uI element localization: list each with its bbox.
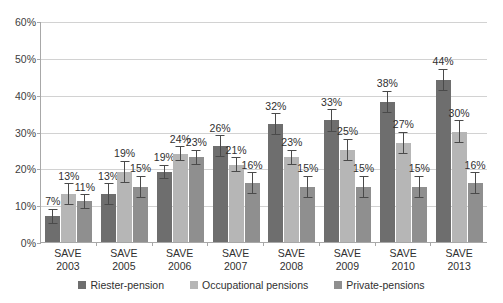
x-axis-tick-label: SAVE2013 xyxy=(431,247,487,273)
bar-value-label: 13% xyxy=(58,171,79,182)
x-axis-tick-label: SAVE2008 xyxy=(264,247,320,273)
bar[interactable] xyxy=(396,143,411,242)
y-axis-tick-label: 30% xyxy=(0,127,36,138)
y-axis-tick-label: 0% xyxy=(0,238,36,249)
legend-item[interactable]: Riester-pension xyxy=(78,280,164,291)
bar[interactable] xyxy=(229,165,244,242)
y-axis-tick-label: 40% xyxy=(0,90,36,101)
bar-slot: 7% xyxy=(45,22,60,242)
bar[interactable] xyxy=(436,80,451,242)
error-bar xyxy=(216,135,225,157)
legend-label: Riester-pension xyxy=(90,280,164,291)
bar-value-label: 19% xyxy=(114,148,135,159)
y-axis-tick-label: 50% xyxy=(0,54,36,65)
bar-value-label: 30% xyxy=(449,108,470,119)
bar-value-label: 13% xyxy=(98,171,119,182)
bar-slot: 26% xyxy=(213,22,228,242)
bar-group: 38%27%15% xyxy=(376,22,432,242)
error-bar xyxy=(471,172,480,194)
bar-value-label: 15% xyxy=(409,163,430,174)
bar-value-label: 27% xyxy=(393,119,414,130)
bar-value-label: 25% xyxy=(337,126,358,137)
bar[interactable] xyxy=(452,132,467,243)
error-bar xyxy=(415,176,424,198)
error-bar xyxy=(64,183,73,205)
bar-slot: 32% xyxy=(268,22,283,242)
x-axis-tick-label: SAVE2007 xyxy=(208,247,264,273)
error-bar xyxy=(383,91,392,113)
bar-value-label: 11% xyxy=(75,182,95,193)
bar-slot: 15% xyxy=(356,22,371,242)
bar-slot: 15% xyxy=(412,22,427,242)
bar-value-label: 7% xyxy=(45,196,60,207)
bar-value-label: 21% xyxy=(226,145,247,156)
bar-slot: 23% xyxy=(284,22,299,242)
error-bar xyxy=(192,150,201,165)
error-bar xyxy=(343,139,352,161)
legend-item[interactable]: Occupational pensions xyxy=(190,280,308,291)
error-bar xyxy=(48,209,57,224)
bar-slot: 27% xyxy=(396,22,411,242)
error-bar xyxy=(248,172,257,194)
bar-group: 44%30%16% xyxy=(431,22,487,242)
bar-slot: 19% xyxy=(117,22,132,242)
bar-value-label: 38% xyxy=(377,78,398,89)
x-axis-tick-labels: SAVE2003SAVE2005SAVE2006SAVE2007SAVE2008… xyxy=(40,247,487,273)
error-bar xyxy=(439,69,448,91)
error-bar xyxy=(232,157,241,172)
bar-chart: 7%13%11%13%19%15%19%24%23%26%21%16%32%23… xyxy=(0,0,503,303)
bar-group: 7%13%11% xyxy=(41,22,97,242)
legend-swatch-icon xyxy=(190,281,198,289)
error-bar xyxy=(176,146,185,161)
bar-slot: 30% xyxy=(452,22,467,242)
bar-value-label: 44% xyxy=(433,56,454,67)
y-axis-tick-mark xyxy=(37,243,41,244)
bar-slot: 15% xyxy=(300,22,315,242)
legend-item[interactable]: Private-pensions xyxy=(334,280,424,291)
error-bar xyxy=(399,132,408,154)
error-bar xyxy=(120,161,129,183)
x-axis-tick-label: SAVE2003 xyxy=(40,247,96,273)
bar-slot: 21% xyxy=(229,22,244,242)
error-bar xyxy=(287,150,296,165)
error-bar xyxy=(303,176,312,198)
legend-label: Private-pensions xyxy=(346,280,424,291)
error-bar xyxy=(104,183,113,205)
bar[interactable] xyxy=(157,172,172,242)
error-bar xyxy=(455,120,464,142)
bar[interactable] xyxy=(213,146,228,242)
bar-slot: 11% xyxy=(77,22,92,242)
bar-slot: 16% xyxy=(245,22,260,242)
bar-slot: 25% xyxy=(340,22,355,242)
bar-value-label: 33% xyxy=(321,97,342,108)
plot-area: 7%13%11%13%19%15%19%24%23%26%21%16%32%23… xyxy=(40,22,487,243)
bar-value-label: 19% xyxy=(154,152,175,163)
x-axis-tick-label: SAVE2009 xyxy=(319,247,375,273)
y-axis-tick-label: 60% xyxy=(0,17,36,28)
bar[interactable] xyxy=(324,120,339,242)
bar[interactable] xyxy=(173,154,188,242)
bar-value-label: 15% xyxy=(297,163,318,174)
x-axis-tick-label: SAVE2006 xyxy=(152,247,208,273)
bar-group: 32%23%15% xyxy=(264,22,320,242)
error-bar xyxy=(327,109,336,131)
y-axis-tick-label: 10% xyxy=(0,201,36,212)
error-bar xyxy=(80,194,89,209)
error-bar xyxy=(359,176,368,198)
bar-value-label: 32% xyxy=(265,101,286,112)
bar-group: 19%24%23% xyxy=(153,22,209,242)
bar-value-label: 15% xyxy=(130,163,151,174)
bar-group: 33%25%15% xyxy=(320,22,376,242)
y-axis-tick-label: 20% xyxy=(0,164,36,175)
bar-slot: 16% xyxy=(468,22,483,242)
bar-slot: 13% xyxy=(61,22,76,242)
bar-value-label: 16% xyxy=(242,160,263,171)
bar-slot: 44% xyxy=(436,22,451,242)
bar-value-label: 26% xyxy=(210,123,231,134)
error-bar xyxy=(160,165,169,180)
bar-group: 13%19%15% xyxy=(97,22,153,242)
chart-legend: Riester-pensionOccupational pensionsPriv… xyxy=(0,280,503,291)
bar-slot: 24% xyxy=(173,22,188,242)
bar-slot: 38% xyxy=(380,22,395,242)
bar[interactable] xyxy=(189,157,204,242)
